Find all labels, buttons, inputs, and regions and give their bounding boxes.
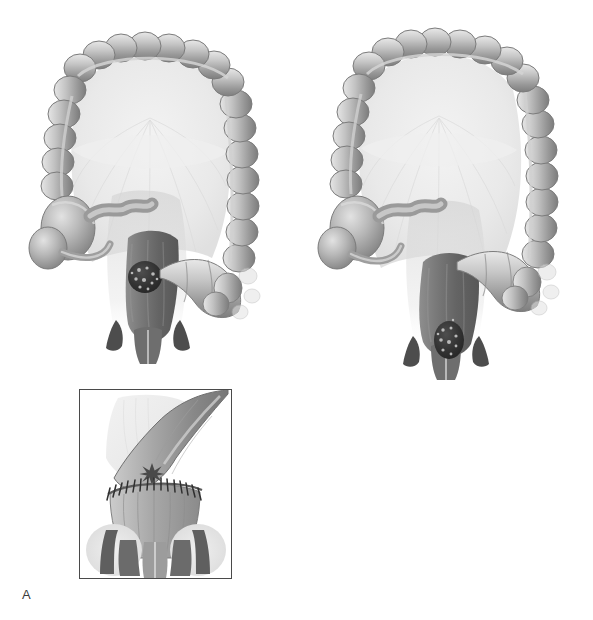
inset-a-anastomosis-detail <box>79 389 232 579</box>
figure-root: A <box>0 0 593 620</box>
descending-colon <box>517 86 558 268</box>
inset-a-drawing <box>80 390 231 578</box>
panel-a: A <box>0 0 300 620</box>
panel-a-anatomy <box>0 0 300 400</box>
rectal-tumor <box>128 261 162 293</box>
panel-b: B <box>293 0 593 620</box>
panel-b-anatomy <box>293 0 593 400</box>
panel-a-label: A <box>22 588 31 601</box>
